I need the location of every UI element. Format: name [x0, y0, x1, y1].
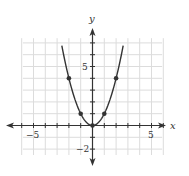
parabola-plot: x y −5 5 5 −2	[0, 0, 189, 176]
data-point	[67, 76, 72, 81]
y-tick-label-5: 5	[82, 62, 88, 72]
x-tick-label-5: 5	[148, 130, 154, 140]
y-tick-label-neg2: −2	[76, 144, 89, 154]
data-point	[78, 111, 83, 116]
y-axis-label: y	[88, 13, 95, 24]
data-point	[114, 76, 119, 81]
x-axis-label: x	[170, 120, 176, 131]
data-point	[90, 123, 95, 128]
x-tick-label-neg5: −5	[26, 130, 40, 140]
data-point	[102, 111, 107, 116]
